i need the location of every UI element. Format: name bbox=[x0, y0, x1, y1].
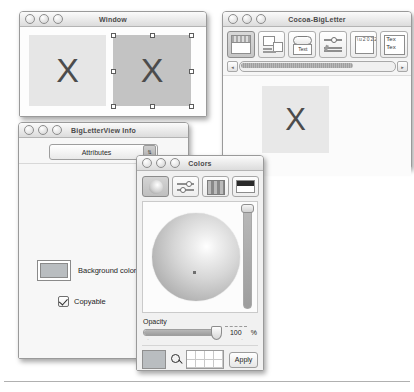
controls-palette-icon[interactable]: Text bbox=[288, 31, 316, 58]
titlebar-colors[interactable]: Colors bbox=[137, 156, 263, 171]
traffic-lights-colors bbox=[142, 158, 180, 168]
resize-handle[interactable] bbox=[150, 33, 155, 38]
controls-text-label: Text bbox=[293, 44, 312, 55]
zoom-button[interactable] bbox=[256, 14, 266, 24]
opacity-section: Opacity 100 % · · bbox=[137, 313, 263, 341]
copyable-checkbox[interactable] bbox=[58, 296, 69, 307]
resize-handle[interactable] bbox=[189, 69, 194, 74]
opacity-slider[interactable] bbox=[143, 329, 221, 336]
brightness-slider[interactable] bbox=[243, 207, 252, 309]
resize-handle[interactable] bbox=[189, 33, 194, 38]
window-colors-content: Opacity 100 % · · A bbox=[137, 171, 263, 370]
window-cocoa-bigletter[interactable]: Cocoa-BigLetter Text bbox=[222, 11, 412, 168]
swatch-cell[interactable] bbox=[214, 351, 223, 360]
opacity-value-field[interactable]: 100 bbox=[225, 326, 247, 338]
background-color-label: Background color bbox=[78, 266, 136, 275]
resize-handle[interactable] bbox=[111, 69, 116, 74]
swatch-cell[interactable] bbox=[196, 351, 205, 360]
background-color-well[interactable] bbox=[38, 261, 70, 280]
titlebar-info[interactable]: BigLetterView Info bbox=[19, 123, 188, 138]
attributes-popup-value: Attributes bbox=[50, 149, 143, 156]
copyable-row[interactable]: Copyable bbox=[58, 296, 106, 307]
resize-handle[interactable] bbox=[189, 104, 194, 109]
window-main-content: X X bbox=[20, 27, 206, 116]
background-color-row: Background color bbox=[38, 261, 136, 280]
close-button[interactable] bbox=[142, 158, 152, 168]
containers-palette-icon[interactable]: \u2022\u2022\u2022 bbox=[350, 31, 378, 58]
opacity-unit-label: % bbox=[251, 329, 257, 336]
color-wheel-pane[interactable] bbox=[142, 201, 258, 313]
minimize-button[interactable] bbox=[38, 125, 48, 135]
page-divider bbox=[4, 381, 410, 382]
minimize-button[interactable] bbox=[242, 14, 252, 24]
window-palette-icon[interactable] bbox=[227, 31, 255, 58]
text-icon-line1: Tex bbox=[386, 36, 395, 42]
color-sliders-tab[interactable] bbox=[172, 176, 199, 197]
bigletter-view-canvas[interactable]: X bbox=[262, 86, 329, 153]
resize-handle[interactable] bbox=[111, 104, 116, 109]
zoom-button[interactable] bbox=[53, 14, 63, 24]
close-button[interactable] bbox=[24, 125, 34, 135]
brightness-slider-knob[interactable] bbox=[241, 204, 254, 213]
color-wheel-tab[interactable] bbox=[142, 176, 169, 197]
window-colors[interactable]: Colors bbox=[136, 155, 264, 371]
bigletter-view-left[interactable]: X bbox=[29, 35, 106, 106]
colors-toolbar bbox=[137, 171, 263, 201]
color-wheel-selector[interactable] bbox=[193, 271, 196, 274]
zoom-button[interactable] bbox=[170, 158, 180, 168]
apply-button[interactable]: Apply bbox=[229, 352, 258, 368]
palette-scrollbar[interactable]: ◂ ▸ bbox=[223, 60, 411, 75]
copyable-label: Copyable bbox=[74, 297, 106, 306]
minimize-button[interactable] bbox=[156, 158, 166, 168]
titlebar-cocoa[interactable]: Cocoa-BigLetter bbox=[223, 12, 411, 27]
swatch-cell[interactable] bbox=[205, 360, 214, 369]
image-palettes-tab[interactable] bbox=[232, 176, 259, 197]
opacity-tick-mid: · bbox=[241, 337, 243, 341]
scrollbar-track[interactable] bbox=[239, 61, 396, 72]
magnifier-icon[interactable] bbox=[171, 354, 181, 365]
swatch-cell[interactable] bbox=[196, 360, 205, 369]
traffic-lights-main bbox=[25, 14, 63, 24]
opacity-label: Opacity bbox=[143, 318, 257, 325]
color-wheel[interactable] bbox=[152, 213, 240, 301]
swatch-cell[interactable] bbox=[205, 351, 214, 360]
text-palette-icon[interactable]: Tex Tex bbox=[380, 31, 408, 58]
zoom-button[interactable] bbox=[52, 125, 62, 135]
colors-bottom-bar: Apply bbox=[142, 345, 258, 369]
traffic-lights-cocoa bbox=[228, 14, 266, 24]
minimize-button[interactable] bbox=[39, 14, 49, 24]
traffic-lights-info bbox=[24, 125, 62, 135]
scroll-right-arrow[interactable]: ▸ bbox=[397, 61, 408, 72]
resize-handle[interactable] bbox=[150, 104, 155, 109]
swatch-cell[interactable] bbox=[214, 360, 223, 369]
opacity-tick-left: · bbox=[147, 337, 149, 341]
palette-toolbar: Text \u2022\u2022\u2022 Tex Tex bbox=[223, 27, 411, 60]
swatch-cell[interactable] bbox=[187, 360, 196, 369]
close-button[interactable] bbox=[25, 14, 35, 24]
text-icon-line2: Tex bbox=[386, 44, 395, 50]
titlebar-main[interactable]: Window bbox=[20, 12, 206, 27]
scroll-left-arrow[interactable]: ◂ bbox=[227, 61, 238, 72]
window-main[interactable]: Window X X bbox=[19, 11, 207, 117]
resize-handle[interactable] bbox=[111, 33, 116, 38]
swatch-grid[interactable] bbox=[186, 350, 224, 369]
color-palettes-tab[interactable] bbox=[202, 176, 229, 197]
scrollbar-thumb[interactable] bbox=[241, 63, 353, 68]
window-cocoa-content: Text \u2022\u2022\u2022 Tex Tex ◂ bbox=[223, 27, 411, 167]
bigletter-view-right[interactable]: X bbox=[113, 35, 191, 106]
swatch-cell[interactable] bbox=[187, 351, 196, 360]
sliders-palette-icon[interactable] bbox=[319, 31, 347, 58]
opacity-slider-knob[interactable] bbox=[211, 326, 222, 340]
opacity-slider-fill bbox=[144, 330, 215, 335]
current-color-swatch[interactable] bbox=[142, 350, 166, 369]
views-palette-icon[interactable] bbox=[258, 31, 286, 58]
close-button[interactable] bbox=[228, 14, 238, 24]
